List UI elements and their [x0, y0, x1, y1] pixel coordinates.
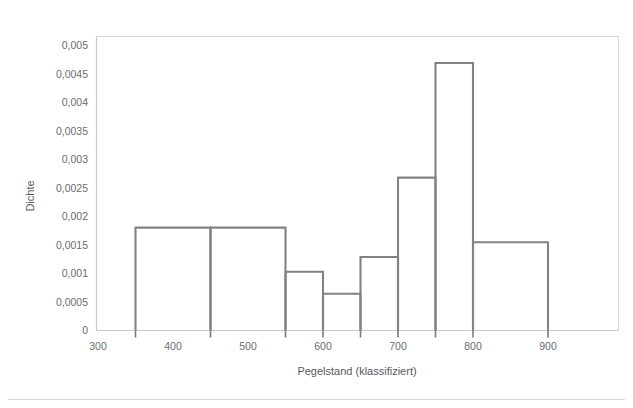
x-tick-label-600: 600	[314, 340, 332, 352]
y-tick-label-8: 0,004	[62, 96, 88, 108]
histogram-bar	[398, 178, 436, 331]
x-tick-label-500: 500	[239, 340, 257, 352]
y-axis-title: Dichte	[24, 180, 36, 211]
y-tick-label-10: 0,005	[62, 39, 88, 51]
x-tick-label-400: 400	[164, 340, 182, 352]
plot-frame	[97, 37, 619, 331]
x-tick-label-900: 900	[539, 340, 557, 352]
histogram-bar	[473, 242, 548, 330]
y-tick-label-7: 0,0035	[56, 125, 88, 137]
x-tick-label-800: 800	[464, 340, 482, 352]
x-axis-title: Pegelstand (klassifiziert)	[297, 365, 416, 377]
y-tick-label-9: 0,0045	[56, 68, 88, 80]
y-tick-label-2: 0,001	[62, 267, 88, 279]
x-tick-label-700: 700	[389, 340, 407, 352]
y-tick-label-6: 0,003	[62, 153, 88, 165]
y-tick-label-1: 0,0005	[56, 296, 88, 308]
y-tick-label-4: 0,002	[62, 210, 88, 222]
histogram-bar	[286, 272, 324, 331]
histogram-bars	[136, 63, 549, 331]
histogram-bar	[361, 257, 399, 331]
x-tick-label-300: 300	[89, 340, 107, 352]
y-tick-label-3: 0,0015	[56, 239, 88, 251]
density-histogram-chart: 0 0,0005 0,001 0,0015 0,002 0,0025 0,003…	[0, 0, 633, 408]
histogram-bar	[136, 228, 211, 331]
y-tick-label-5: 0,0025	[56, 182, 88, 194]
histogram-bar	[323, 294, 361, 331]
y-tick-label-0: 0	[82, 324, 88, 336]
histogram-bar	[436, 63, 474, 331]
histogram-figure: 0 0,0005 0,001 0,0015 0,002 0,0025 0,003…	[0, 0, 633, 408]
histogram-bar	[211, 228, 286, 331]
